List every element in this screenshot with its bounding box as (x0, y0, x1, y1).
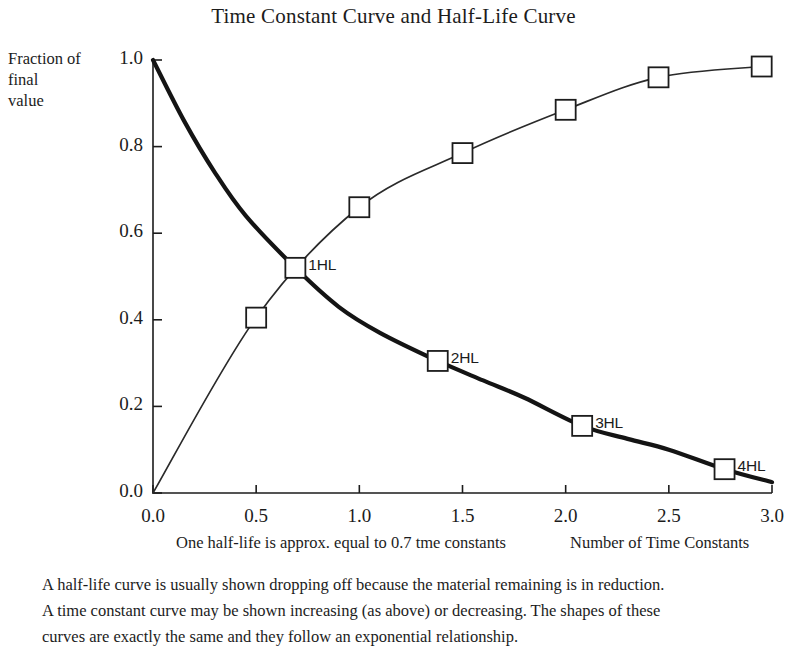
data-point-marker-0-2 (572, 416, 592, 436)
y-tick-label-3: 0.6 (95, 220, 143, 242)
series-line-1 (153, 67, 762, 494)
data-point-marker-1-1 (349, 197, 369, 217)
caption-line-1: A half-life curve is usually shown dropp… (42, 572, 758, 598)
x-tick-label-4: 2.0 (536, 505, 596, 527)
data-point-marker-1-0 (246, 308, 266, 328)
data-point-marker-0-1 (428, 351, 448, 371)
figure-container: Time Constant Curve and Half-Life Curve … (0, 0, 787, 651)
x-tick-label-3: 1.5 (433, 505, 493, 527)
y-axis-title-line-3: value (8, 90, 100, 111)
y-tick-label-2: 0.4 (95, 307, 143, 329)
x-tick-label-6: 3.0 (742, 505, 787, 527)
axis-lines (153, 60, 772, 493)
y-axis-title-line-1: Fraction of (8, 48, 100, 69)
data-point-marker-1-5 (752, 57, 772, 77)
x-axis-title: Number of Time Constants (570, 533, 749, 553)
data-point-marker-1-3 (556, 100, 576, 120)
data-point-marker-0-0 (285, 258, 305, 278)
half-life-note: One half-life is approx. equal to 0.7 tm… (176, 533, 506, 553)
x-tick-label-5: 2.5 (639, 505, 699, 527)
series-line-0 (153, 60, 772, 482)
x-tick-label-2: 1.0 (329, 505, 389, 527)
y-tick-label-5: 1.0 (95, 47, 143, 69)
caption-line-3: curves are exactly the same and they fol… (42, 624, 758, 650)
y-tick-label-1: 0.2 (95, 393, 143, 415)
marker-label-2hl: 2HL (451, 349, 479, 367)
y-tick-label-0: 0.0 (95, 480, 143, 502)
marker-label-3hl: 3HL (595, 414, 623, 432)
x-tick-label-1: 0.5 (226, 505, 286, 527)
y-axis-title-line-2: final (8, 69, 100, 90)
figure-caption: A half-life curve is usually shown dropp… (42, 572, 758, 650)
caption-line-2: A time constant curve may be shown incre… (42, 598, 758, 624)
y-tick-label-4: 0.8 (95, 134, 143, 156)
y-axis-title: Fraction of final value (8, 48, 100, 111)
data-point-marker-1-2 (453, 143, 473, 163)
chart-title: Time Constant Curve and Half-Life Curve (0, 4, 787, 29)
x-tick-label-0: 0.0 (123, 505, 183, 527)
data-point-marker-0-3 (715, 459, 735, 479)
marker-label-1hl: 1HL (308, 256, 336, 274)
data-point-marker-1-4 (649, 67, 669, 87)
marker-label-4hl: 4HL (738, 457, 766, 475)
